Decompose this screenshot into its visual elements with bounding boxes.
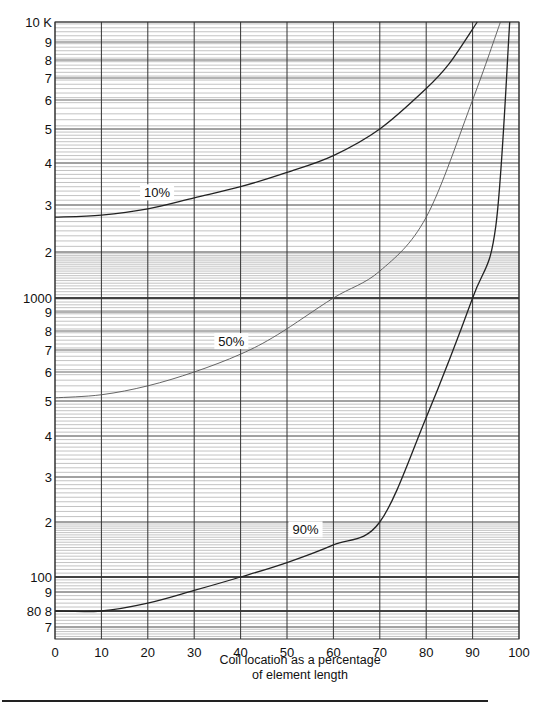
y-tick-label: 2 [45,245,52,260]
x-axis-label-line1: Coil location as a percentage [200,653,400,668]
y-tick-label: 5 [45,122,52,137]
y-tick-label: 100 [30,570,52,585]
x-tick-label: 100 [508,645,530,660]
curve-label: 50% [218,334,244,349]
x-tick-label: 10 [94,645,108,660]
y-tick-label: 80 8 [27,604,52,619]
caption-rule [2,700,488,702]
y-tick-label: 3 [45,198,52,213]
curves [55,22,510,612]
y-tick-label: 6 [45,93,52,108]
curve-label: 10% [144,185,170,200]
y-tick-label: 4 [45,429,52,444]
curve-90pct [55,22,510,612]
curve-label: 90% [293,522,319,537]
y-tick-label: 9 [45,305,52,320]
y-axis-ticks: 10 K98765432100098765432100980 87 [23,15,52,635]
y-tick-label: 2 [45,515,52,530]
x-tick-label: 90 [465,645,479,660]
y-tick-label: 7 [45,71,52,86]
y-tick-label: 1000 [23,291,52,306]
y-tick-label: 6 [45,365,52,380]
y-tick-label: 5 [45,394,52,409]
y-tick-label: 8 [45,324,52,339]
y-tick-label: 3 [45,470,52,485]
x-tick-label: 0 [51,645,58,660]
vertical-gridlines [55,22,519,639]
y-tick-label: 9 [45,35,52,50]
y-tick-label: 10 K [25,15,52,30]
x-tick-label: 80 [419,645,433,660]
y-tick-label: 9 [45,585,52,600]
chart: 10%50%90% 10 K98765432100098765432100980… [0,0,537,717]
y-tick-label: 8 [45,53,52,68]
y-tick-label: 7 [45,620,52,635]
y-tick-label: 7 [45,343,52,358]
x-tick-label: 20 [141,645,155,660]
y-tick-label: 4 [45,156,52,171]
x-axis-label-line2: of element length [200,668,400,683]
x-axis-label: Coil location as a percentage of element… [200,653,400,683]
